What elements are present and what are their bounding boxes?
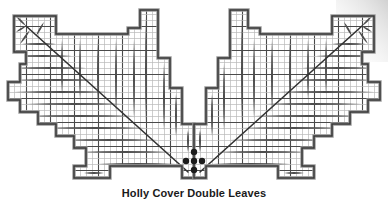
berry-1: [191, 149, 197, 155]
berry-5: [191, 167, 197, 173]
berry-2: [183, 158, 189, 164]
berry-4: [199, 158, 205, 164]
figure-caption: Holly Cover Double Leaves: [0, 186, 388, 205]
berry-3: [191, 158, 197, 164]
pattern-page: Holly Cover Double Leaves: [0, 0, 388, 205]
pattern-canvas: [0, 0, 388, 186]
holly-pattern-figure: [0, 0, 388, 186]
